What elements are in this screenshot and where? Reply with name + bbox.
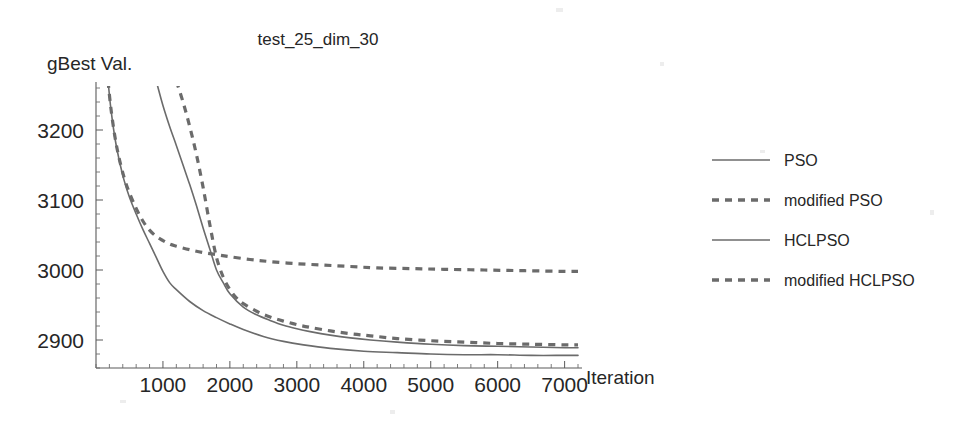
x-axis-label: Iteration: [586, 367, 655, 388]
legend-label: modified HCLPSO: [784, 272, 915, 289]
y-axis-label: gBest Val.: [47, 53, 132, 74]
x-axis-tick-label: 2000: [207, 373, 254, 396]
x-axis-tick-label: 6000: [474, 373, 521, 396]
y-axis-tick-label: 3000: [37, 259, 84, 282]
y-axis-tick-label: 3200: [37, 119, 84, 142]
legend-label: HCLPSO: [784, 232, 850, 249]
chart-title: test_25_dim_30: [258, 30, 379, 49]
chart-figure: test_25_dim_30 gBest Val. Iteration 1000…: [0, 0, 970, 424]
y-axis-tick-label: 2900: [37, 329, 84, 352]
chart-background: [0, 0, 970, 424]
legend-label: modified PSO: [784, 192, 883, 209]
x-axis-tick-label: 7000: [541, 373, 588, 396]
x-axis-tick-label: 3000: [273, 373, 320, 396]
x-axis-tick-label: 1000: [140, 373, 187, 396]
x-axis-tick-label: 4000: [340, 373, 387, 396]
x-axis-tick-label: 5000: [407, 373, 454, 396]
y-axis-tick-label: 3100: [37, 189, 84, 212]
legend-label: PSO: [784, 152, 818, 169]
